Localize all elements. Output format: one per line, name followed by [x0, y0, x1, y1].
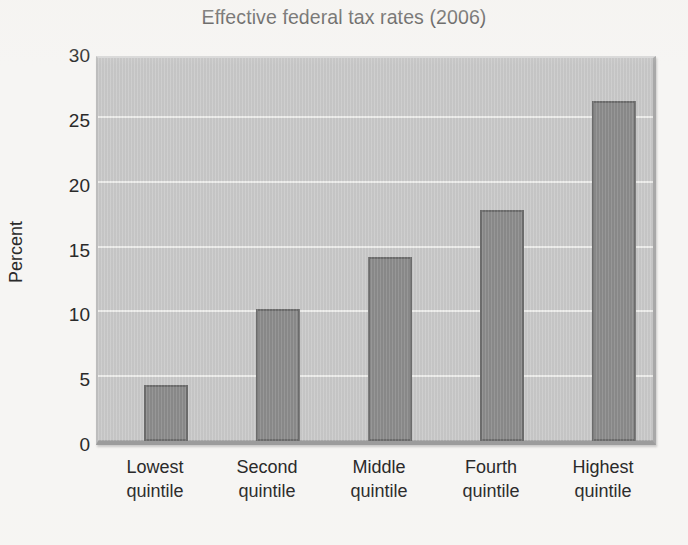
x-tick-label: Fourthquintile [435, 456, 547, 504]
y-tick-label: 5 [44, 370, 90, 389]
bar [368, 257, 412, 441]
y-tick-label: 30 [44, 46, 90, 65]
x-tick-label-line1: Second [211, 456, 323, 480]
x-axis-tick-labels: LowestquintileSecondquintileMiddlequinti… [96, 456, 656, 518]
x-tick-label-line1: Fourth [435, 456, 547, 480]
y-axis-title: Percent [6, 192, 30, 312]
x-tick-label-line2: quintile [99, 480, 211, 504]
gridline-25 [98, 116, 653, 118]
bar [592, 101, 636, 441]
y-tick-label: 15 [44, 241, 90, 260]
chart-title: Effective federal tax rates (2006) [0, 6, 688, 29]
x-tick-label-line2: quintile [211, 480, 323, 504]
plot-area [96, 56, 656, 445]
x-tick-label-line2: quintile [435, 480, 547, 504]
chart-figure: Effective federal tax rates (2006) Perce… [0, 0, 688, 545]
x-tick-label: Highestquintile [547, 456, 659, 504]
x-tick-label-line1: Middle [323, 456, 435, 480]
x-tick-label-line2: quintile [547, 480, 659, 504]
x-tick-label-line1: Lowest [99, 456, 211, 480]
x-tick-label: Middlequintile [323, 456, 435, 504]
y-tick-label: 10 [44, 305, 90, 324]
bar [256, 309, 300, 441]
gridline-15 [98, 246, 653, 248]
x-tick-label-line2: quintile [323, 480, 435, 504]
y-tick-label: 20 [44, 176, 90, 195]
gridline-20 [98, 181, 653, 183]
plot-inner [98, 58, 653, 441]
y-axis-tick-labels: 051015202530 [38, 56, 90, 445]
bar [144, 385, 188, 441]
x-tick-label: Secondquintile [211, 456, 323, 504]
bar [480, 210, 524, 441]
x-tick-label-line1: Highest [547, 456, 659, 480]
x-tick-label: Lowestquintile [99, 456, 211, 504]
y-tick-label: 25 [44, 111, 90, 130]
y-tick-label: 0 [44, 435, 90, 454]
